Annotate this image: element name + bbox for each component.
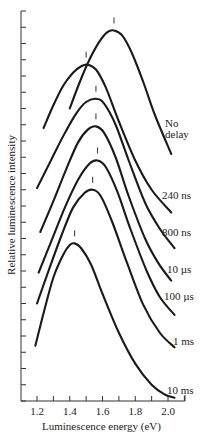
series-label: 240 ns <box>162 190 191 201</box>
curve-10-µs <box>40 126 171 281</box>
series-label: 1 ms <box>173 336 194 347</box>
curves <box>35 30 174 397</box>
x-tick-label: 2.0 <box>161 405 175 417</box>
x-tick-label: 1.8 <box>128 405 142 417</box>
series-label: 10 µs <box>167 264 191 275</box>
series-label: 100 µs <box>164 291 194 302</box>
x-tick-label: 1.6 <box>96 405 110 417</box>
axis-lines <box>21 11 185 401</box>
x-tick-label: 1.4 <box>63 405 77 417</box>
curve-10-ms <box>35 243 174 398</box>
curve-100-µs <box>39 160 175 315</box>
series-label: Nodelay <box>165 118 189 140</box>
series-label: 800 ns <box>162 227 191 238</box>
x-tick-label: 1.2 <box>30 405 44 417</box>
series-label: 10 ms <box>167 385 194 396</box>
y-axis-label: Relative luminescence intensity <box>5 135 17 275</box>
x-axis-label: Luminescence energy (eV) <box>42 420 161 432</box>
chart-plot-area <box>0 0 204 435</box>
axes <box>21 11 185 401</box>
